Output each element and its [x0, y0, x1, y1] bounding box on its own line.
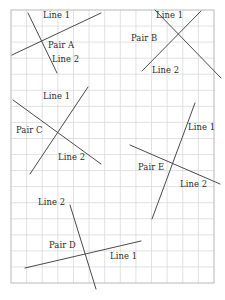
pair-b-label: Pair B [131, 34, 157, 43]
pair-b-line-1-label: Line 1 [156, 11, 183, 20]
line-pairs-figure: Pair ALine 1Line 2Pair BLine 1Line 2Pair… [0, 0, 225, 300]
pair-c-line-2-label: Line 2 [58, 153, 85, 162]
pair-e-line-1-segment [152, 103, 195, 219]
pair-c-line-1-label: Line 1 [43, 92, 70, 101]
pair-a-line-1-label: Line 1 [43, 11, 70, 20]
pair-d-line-1-label: Line 1 [110, 252, 137, 261]
pair-a-line-2-label: Line 2 [52, 55, 79, 64]
pair-e-line-1-label: Line 1 [188, 123, 215, 132]
pair-a-label: Pair A [48, 41, 74, 50]
pair-e-label: Pair E [138, 163, 164, 172]
background-grid [11, 10, 214, 283]
grid-border [11, 10, 214, 283]
pair-d-label: Pair D [49, 241, 76, 250]
pair-e-line-2-label: Line 2 [180, 180, 207, 189]
pair-d-line-2-label: Line 2 [38, 198, 65, 207]
pair-b-line-2-label: Line 2 [152, 66, 179, 75]
line-segments-group [12, 10, 221, 289]
pair-c-label: Pair C [16, 126, 43, 135]
